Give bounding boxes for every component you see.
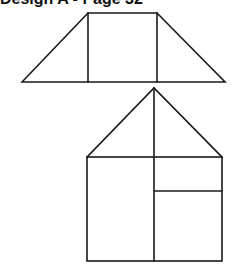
- house-shape: [87, 88, 222, 261]
- trapezoid-shape: [22, 13, 225, 82]
- geometric-figure: [0, 0, 243, 270]
- trapezoid-outline: [22, 13, 225, 82]
